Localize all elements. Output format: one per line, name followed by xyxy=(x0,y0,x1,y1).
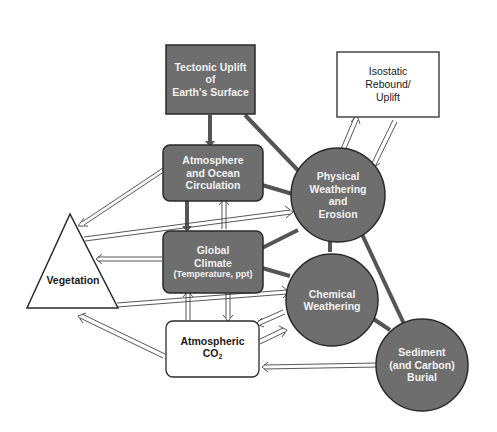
label-line: Atmosphere xyxy=(182,154,243,167)
label-line: Erosion xyxy=(318,208,357,221)
label-line: Global xyxy=(197,244,230,257)
label-chemical-weathering: Chemical Weathering xyxy=(286,254,378,346)
co2-formula: CO2 xyxy=(203,347,223,364)
label-subtitle: (Temperature, ppt) xyxy=(174,269,253,280)
label-atmosphere-ocean: Atmosphere and Ocean Circulation xyxy=(163,145,263,201)
label-line: Circulation xyxy=(186,179,241,192)
label-physical-weathering: Physical Weathering and Erosion xyxy=(291,148,385,242)
label-line: (and Carbon) xyxy=(389,359,454,372)
label-line: of xyxy=(206,73,216,86)
label-line: Climate xyxy=(194,257,232,270)
label-line: Atmospheric xyxy=(180,335,244,348)
formula-main: CO xyxy=(203,347,219,359)
formula-subscript: 2 xyxy=(218,353,222,360)
arrow-chemical-to-co2 xyxy=(258,310,285,325)
label-line: Tectonic Uplift xyxy=(174,61,246,74)
label-line: Uplift xyxy=(376,91,400,104)
label-sediment-burial: Sediment (and Carbon) Burial xyxy=(376,319,468,411)
label-line: Weathering xyxy=(310,183,367,196)
label-global-climate: Global Climate (Temperature, ppt) xyxy=(163,231,263,293)
arrow-sediment-to-co2 xyxy=(264,363,378,369)
label-line: Burial xyxy=(407,371,437,384)
label-line: Vegetation xyxy=(46,274,99,287)
label-line: Rebound/ xyxy=(365,78,411,91)
label-tectonic-uplift: Tectonic Uplift of Earth's Surface xyxy=(166,45,255,114)
label-line: Sediment xyxy=(398,346,445,359)
label-line: Weathering xyxy=(304,300,361,313)
arrow-climate-to-co2 xyxy=(226,293,230,318)
label-line: and Ocean xyxy=(186,167,240,180)
arrow-co2-to-vegetation xyxy=(80,314,165,358)
label-line: Isostatic xyxy=(369,65,408,78)
label-line: and xyxy=(329,195,348,208)
arrow-co2-to-chemical xyxy=(258,328,285,344)
label-line: Physical xyxy=(317,170,360,183)
label-atmospheric-co2: Atmospheric CO2 xyxy=(166,321,259,377)
arrow-climate-to-atmosphere xyxy=(222,202,226,229)
label-vegetation: Vegetation xyxy=(38,270,108,290)
label-isostatic-rebound: Isostatic Rebound/ Uplift xyxy=(337,52,439,117)
arrow-atmosphere-to-vegetation xyxy=(82,168,165,225)
label-line: Earth's Surface xyxy=(172,86,249,99)
arrow-climate-to-vegetation xyxy=(98,257,162,261)
label-line: Chemical xyxy=(309,288,356,301)
